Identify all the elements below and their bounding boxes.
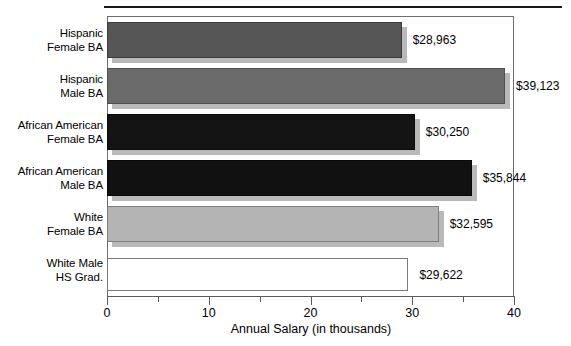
- x-minor-tick-35: [463, 297, 464, 302]
- bar-chart: Hispanic Female BA Hispanic Male BA Afri…: [0, 0, 571, 346]
- x-tick-10: [209, 297, 210, 305]
- bar-2[interactable]: [107, 68, 505, 104]
- bar-1[interactable]: [107, 22, 402, 58]
- category-label-line1: African American: [18, 119, 103, 131]
- top-rule-divider: [104, 6, 562, 8]
- category-label-line1: Hispanic: [60, 27, 103, 39]
- bar-3[interactable]: [107, 114, 415, 150]
- x-tick-0: [107, 297, 108, 305]
- category-label-line2: Male BA: [60, 87, 103, 99]
- bar-value-label-1: $28,963: [413, 33, 456, 47]
- bar-value-label-2: $39,123: [516, 79, 559, 93]
- category-label-line1: African American: [18, 165, 103, 177]
- category-label-line2: Female BA: [47, 41, 103, 53]
- x-tick-label-30: 30: [392, 306, 432, 321]
- category-label-african-american-male-ba: African American Male BA: [3, 165, 103, 192]
- category-label-line2: Male BA: [60, 179, 103, 191]
- x-minor-tick-5: [158, 297, 159, 302]
- category-label-white-female-ba: White Female BA: [3, 211, 103, 238]
- x-axis-title: Annual Salary (in thousands): [107, 322, 515, 336]
- x-tick-label-40: 40: [494, 306, 534, 321]
- bar-value-label-5: $32,595: [450, 217, 493, 231]
- category-label-white-male-hs-grad: White Male HS Grad.: [3, 257, 103, 284]
- category-label-hispanic-male-ba: Hispanic Male BA: [3, 73, 103, 100]
- category-label-line1: White: [74, 211, 103, 223]
- bar-value-label-4: $35,844: [483, 171, 526, 185]
- bar-4[interactable]: [107, 160, 472, 196]
- category-label-line2: Female BA: [47, 133, 103, 145]
- x-minor-tick-25: [361, 297, 362, 302]
- bar-value-label-6: $29,622: [419, 268, 462, 282]
- x-tick-label-0: 0: [87, 306, 127, 321]
- x-minor-tick-15: [260, 297, 261, 302]
- bar-5[interactable]: [107, 206, 439, 242]
- category-label-hispanic-female-ba: Hispanic Female BA: [3, 27, 103, 54]
- category-label-line2: HS Grad.: [56, 271, 103, 283]
- bar-value-label-3: $30,250: [426, 125, 469, 139]
- category-label-line1: White Male: [46, 257, 103, 269]
- bar-6[interactable]: [107, 258, 408, 291]
- category-axis-labels: Hispanic Female BA Hispanic Male BA Afri…: [0, 0, 103, 346]
- x-tick-label-10: 10: [189, 306, 229, 321]
- category-label-line1: Hispanic: [60, 73, 103, 85]
- x-tick-20: [311, 297, 312, 305]
- x-tick-label-20: 20: [291, 306, 331, 321]
- x-tick-30: [412, 297, 413, 305]
- category-label-line2: Female BA: [47, 225, 103, 237]
- x-tick-40: [514, 297, 515, 305]
- category-label-african-american-female-ba: African American Female BA: [3, 119, 103, 146]
